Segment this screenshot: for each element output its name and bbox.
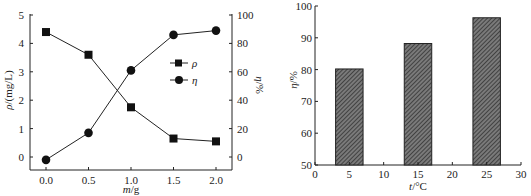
- left-y-tick-label: 4: [19, 37, 25, 49]
- rho-series-line: [46, 32, 216, 141]
- rho-square-marker: [212, 137, 220, 145]
- line-chart-rho-eta: 0123450204060801000.00.51.01.52.0m/gρ/(m…: [2, 9, 266, 195]
- right-y-tick-label: 0: [237, 151, 243, 163]
- legend-label-rho: ρ: [191, 57, 197, 69]
- eta-circle-marker: [169, 31, 178, 40]
- left-y-tick-label: 1: [19, 123, 25, 135]
- rho-square-marker: [127, 103, 135, 111]
- x-tick-label: 20: [447, 168, 459, 180]
- x-tick-label: 2.0: [209, 174, 223, 186]
- x-tick-label: 10: [378, 168, 390, 180]
- legend-circle-icon: [175, 76, 183, 84]
- y-tick-label: 100: [296, 0, 313, 12]
- rho-square-marker: [170, 135, 178, 143]
- y-tick-label: 90: [301, 32, 313, 44]
- right-y-tick-label: 60: [237, 66, 249, 78]
- figure: 0123450204060801000.00.51.01.52.0m/gρ/(m…: [0, 0, 531, 196]
- right-y-tick-label: 100: [237, 9, 254, 21]
- right-y-axis-label: η/%: [254, 76, 266, 94]
- x-tick-label: 15: [413, 168, 425, 180]
- right-y-tick-label: 20: [237, 123, 249, 135]
- bar: [404, 44, 431, 165]
- right-y-tick-label: 40: [237, 94, 249, 106]
- eta-circle-marker: [127, 66, 136, 75]
- bar: [336, 69, 363, 165]
- left-y-tick-label: 2: [19, 94, 25, 106]
- left-y-tick-label: 5: [19, 9, 25, 21]
- legend-label-eta: η: [192, 74, 197, 86]
- left-y-tick-label: 0: [19, 151, 25, 163]
- x-tick-label: 1.5: [167, 174, 181, 186]
- eta-circle-marker: [42, 156, 51, 165]
- legend-square-icon: [175, 60, 182, 67]
- x-tick-label: 30: [516, 168, 528, 180]
- y-tick-label: 70: [301, 95, 313, 107]
- legend: ρη: [170, 57, 197, 86]
- rho-square-marker: [85, 51, 93, 59]
- x-tick-label: 0.5: [82, 174, 96, 186]
- x-axis-label: m/g: [123, 183, 140, 195]
- x-tick-label: 5: [347, 168, 353, 180]
- right-y-tick-label: 80: [237, 37, 249, 49]
- left-y-tick-label: 3: [19, 66, 25, 78]
- eta-circle-marker: [84, 129, 93, 138]
- x-tick-label: 0.0: [39, 174, 53, 186]
- x-tick-label: 0: [312, 168, 318, 180]
- eta-circle-marker: [212, 26, 221, 35]
- y-tick-label: 60: [301, 127, 313, 139]
- bar-chart-eta-temperature: 5060708090100051015202530t/°Cη/%: [287, 0, 527, 192]
- rho-square-marker: [42, 28, 50, 36]
- y-tick-label: 50: [301, 159, 313, 171]
- x-tick-label: 25: [481, 168, 493, 180]
- left-y-axis-label: ρ/(mg/L): [2, 70, 15, 111]
- bar: [473, 18, 500, 165]
- y-tick-label: 80: [301, 64, 313, 76]
- eta-series-line: [46, 31, 216, 160]
- y-axis-label: η/%: [287, 71, 299, 89]
- x-axis-label: t/°C: [409, 180, 427, 192]
